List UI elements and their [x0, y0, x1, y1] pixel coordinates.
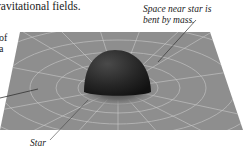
callout-space-bent: Space near star is bent by mass.	[143, 4, 211, 26]
callout-line: bent by mass.	[143, 15, 211, 26]
callout-star: Star	[30, 138, 46, 149]
callout-line: Space near star is	[143, 4, 211, 15]
